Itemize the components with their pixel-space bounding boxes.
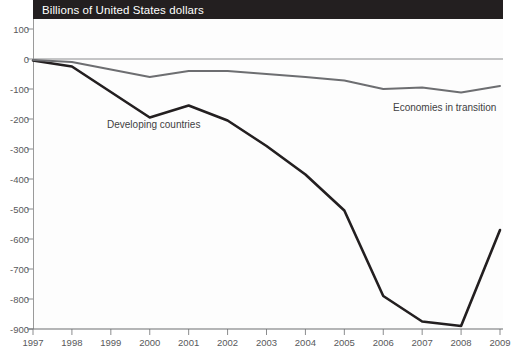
series-line-developing-countries — [33, 61, 500, 327]
y-tick-label: -800 — [1, 294, 29, 305]
y-tick-label: -700 — [1, 264, 29, 275]
series-label-economies-in-transition: Economies in transition — [393, 102, 496, 113]
x-tick-label: 2003 — [256, 337, 277, 348]
x-tick-label: 1999 — [100, 337, 121, 348]
y-axis-labels: 1000-100-200-300-400-500-600-700-800-900 — [0, 0, 29, 358]
y-tick-label: 0 — [1, 54, 29, 65]
y-tick-label: -400 — [1, 174, 29, 185]
x-tick-label: 2000 — [139, 337, 160, 348]
x-axis-ticks — [33, 329, 500, 335]
y-tick-label: -100 — [1, 84, 29, 95]
y-tick-label: -600 — [1, 234, 29, 245]
y-tick-label: -200 — [1, 114, 29, 125]
x-tick-label: 2002 — [217, 337, 238, 348]
x-tick-label: 1998 — [61, 337, 82, 348]
series-group — [33, 60, 500, 326]
x-tick-label: 2004 — [295, 337, 316, 348]
y-tick-label: -300 — [1, 144, 29, 155]
x-tick-label: 2007 — [412, 337, 433, 348]
series-label-developing-countries: Developing countries — [107, 119, 200, 130]
x-tick-label: 2009 — [489, 337, 510, 348]
x-tick-label: 2005 — [334, 337, 355, 348]
x-tick-label: 2001 — [178, 337, 199, 348]
y-tick-label: 100 — [1, 24, 29, 35]
y-tick-label: -500 — [1, 204, 29, 215]
x-tick-label: 2006 — [373, 337, 394, 348]
x-tick-label: 2008 — [451, 337, 472, 348]
x-axis-labels: 1997199819992000200120022003200420052006… — [0, 337, 503, 358]
x-tick-label: 1997 — [22, 337, 43, 348]
y-tick-label: -900 — [1, 324, 29, 335]
